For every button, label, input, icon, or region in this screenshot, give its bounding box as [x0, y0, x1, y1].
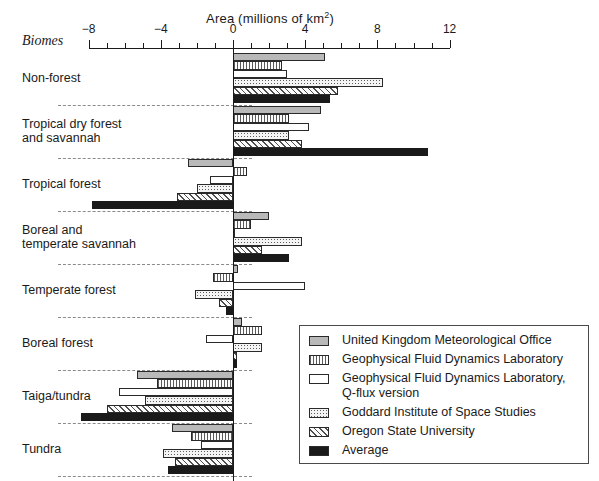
bar — [233, 114, 289, 122]
legend-label: Geophysical Fluid Dynamics Laboratory, Q… — [342, 371, 565, 401]
bar — [233, 318, 242, 326]
group-separator — [234, 370, 252, 371]
legend-label: Goddard Institute of Space Studies — [342, 405, 536, 420]
bar — [168, 466, 233, 474]
bar — [201, 441, 233, 449]
legend-label: Geophysical Fluid Dynamics Laboratory — [342, 352, 563, 367]
legend-item[interactable]: Oregon State University — [309, 424, 579, 443]
bar — [233, 140, 302, 148]
bar — [92, 201, 233, 209]
x-axis-tick--8 — [89, 40, 90, 48]
x-axis-tick-1 — [251, 43, 252, 48]
legend-label: Average — [342, 443, 388, 458]
bar — [233, 326, 262, 334]
legend-item[interactable]: United Kingdom Meteorological Office — [309, 333, 579, 352]
y-axis-title: Biomes — [22, 33, 63, 49]
bar — [233, 343, 262, 351]
x-axis-label-0: 0 — [218, 22, 248, 36]
legend-item[interactable]: Goddard Institute of Space Studies — [309, 405, 579, 424]
legend-swatch-icon — [309, 446, 329, 456]
legend-swatch-icon — [309, 408, 329, 418]
bar — [233, 95, 330, 103]
x-axis-tick-5 — [323, 43, 324, 48]
x-axis-tick--5 — [143, 43, 144, 48]
bar — [233, 148, 428, 156]
x-axis-label-4: 4 — [290, 22, 320, 36]
bar — [81, 413, 233, 421]
category-label: Boreal forest — [22, 336, 93, 350]
bar — [226, 307, 233, 315]
x-axis-tick-0 — [233, 40, 234, 48]
bar — [210, 176, 233, 184]
bar — [188, 159, 233, 167]
x-axis-tick-6 — [341, 43, 342, 48]
bar — [233, 254, 289, 262]
category-label: Non-forest — [22, 71, 80, 85]
bar — [213, 273, 233, 281]
legend: United Kingdom Meteorological OfficeGeop… — [299, 325, 589, 464]
x-axis-label--4: −4 — [146, 22, 176, 36]
legend-swatch-icon — [309, 355, 329, 365]
x-axis-tick-2 — [269, 43, 270, 48]
bar — [233, 282, 305, 290]
legend-label: United Kingdom Meteorological Office — [342, 333, 552, 348]
group-separator — [58, 211, 234, 212]
bar — [177, 193, 233, 201]
group-separator — [58, 105, 234, 106]
category-label: Taiga/tundra — [22, 389, 91, 403]
bar — [206, 335, 233, 343]
x-axis-tick-3 — [287, 43, 288, 48]
bar — [163, 449, 233, 457]
bar — [195, 290, 233, 298]
group-separator — [234, 423, 252, 424]
x-axis-tick-9 — [395, 43, 396, 48]
x-axis-tick-8 — [377, 40, 378, 48]
x-axis-tick--1 — [215, 43, 216, 48]
legend-swatch-icon — [309, 427, 329, 437]
group-separator — [234, 476, 252, 477]
bar — [233, 131, 289, 139]
bar — [233, 167, 247, 175]
bar — [172, 424, 233, 432]
legend-label: Oregon State University — [342, 424, 475, 439]
bar — [137, 371, 233, 379]
x-axis-tick-7 — [359, 43, 360, 48]
bar — [145, 396, 233, 404]
x-axis-tick--4 — [161, 40, 162, 48]
bar — [157, 379, 233, 387]
legend-swatch-icon — [309, 374, 329, 384]
legend-item[interactable]: Average — [309, 443, 579, 462]
x-axis-tick--6 — [125, 43, 126, 48]
category-label: Tundra — [22, 442, 61, 456]
bar — [107, 405, 233, 413]
bar — [119, 388, 233, 396]
group-separator — [234, 158, 252, 159]
x-axis-tick-12 — [450, 40, 451, 48]
group-separator — [58, 317, 234, 318]
x-axis-title-tail: ) — [329, 11, 334, 26]
x-axis-label-12: 12 — [435, 22, 465, 36]
legend-swatch-icon — [309, 336, 329, 346]
category-label: Boreal and temperate savannah — [22, 223, 136, 251]
bar — [233, 61, 282, 69]
category-label: Temperate forest — [22, 283, 116, 297]
bar — [233, 246, 262, 254]
legend-item[interactable]: Geophysical Fluid Dynamics Laboratory, Q… — [309, 371, 579, 405]
bar — [233, 123, 309, 131]
legend-item[interactable]: Geophysical Fluid Dynamics Laboratory — [309, 352, 579, 371]
bar — [191, 432, 233, 440]
x-axis-label--8: −8 — [74, 22, 104, 36]
bar — [233, 237, 302, 245]
bar — [233, 53, 325, 61]
x-axis-tick--7 — [107, 43, 108, 48]
bar — [233, 220, 251, 228]
axis-baseline — [89, 48, 450, 49]
zero-reference-line — [233, 48, 234, 481]
bar — [233, 70, 287, 78]
x-axis-tick--2 — [197, 43, 198, 48]
bar — [175, 458, 233, 466]
group-separator — [58, 264, 234, 265]
bar — [233, 106, 321, 114]
x-axis-tick--3 — [179, 43, 180, 48]
